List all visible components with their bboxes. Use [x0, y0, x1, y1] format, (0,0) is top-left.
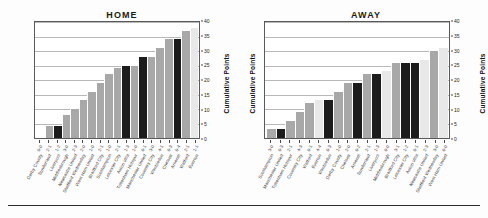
match-score-label: 2-0 — [344, 144, 352, 152]
bar — [323, 100, 333, 138]
y-tick-label: 20 — [454, 77, 460, 83]
y-tick-label: 35 — [204, 33, 210, 39]
bar — [400, 63, 410, 138]
bar — [121, 66, 130, 139]
x-tick-mark — [405, 140, 406, 143]
x-tick-mark — [134, 140, 135, 143]
match-score-label: 3-1 — [393, 144, 401, 152]
y-tick-label: 25 — [204, 62, 210, 68]
y-axis-label-away-left: Cumulative Points — [249, 54, 256, 114]
x-tick-mark — [151, 140, 152, 143]
x-tick-group: 4-3Coventry City — [294, 140, 304, 210]
x-tick-mark — [289, 140, 290, 143]
x-tick-group: 0-1Watford — [304, 140, 314, 210]
x-tick-group: 0-4Arsenal — [173, 140, 182, 210]
match-score-label: 2-1 — [45, 144, 53, 152]
chart-panel-away: AWAY 0510152025303540 Cumulative Points … — [244, 0, 488, 208]
x-tick-mark — [386, 140, 387, 143]
x-tick-mark — [357, 140, 358, 143]
x-tick-mark — [82, 140, 83, 143]
x-tick-mark — [48, 140, 49, 143]
y-tick-mark — [201, 80, 203, 81]
bar — [362, 74, 372, 138]
x-tick-mark — [186, 140, 187, 143]
bar — [138, 57, 147, 138]
y-tick-mark — [451, 35, 453, 36]
match-score-label: 3-0 — [62, 144, 70, 152]
match-score-label: 2-0 — [79, 144, 87, 152]
bar — [352, 83, 362, 138]
y-tick-mark — [451, 124, 453, 125]
x-tick-group: 1-0Derby County — [333, 140, 343, 210]
match-score-label: 2-1 — [97, 144, 105, 152]
bar — [371, 74, 381, 138]
y-tick-mark — [451, 21, 453, 22]
y-axis-away: 0510152025303540 — [451, 21, 473, 139]
bar — [343, 83, 353, 138]
match-score-label: 0-3 — [325, 144, 333, 152]
x-tick-mark — [396, 140, 397, 143]
y-tick-label: 5 — [204, 121, 207, 127]
match-score-label: 2-3 — [71, 144, 79, 152]
x-tick-mark — [39, 140, 40, 143]
y-tick-label: 0 — [454, 136, 457, 142]
bar — [104, 74, 113, 138]
match-score-label: 4-3 — [296, 144, 304, 152]
match-score-label: 1-2 — [402, 144, 410, 152]
plot-area-away — [264, 21, 450, 139]
y-tick-mark — [451, 109, 453, 110]
chart-panel-home: HOME 0510152025303540 Cumulative Points … — [0, 0, 244, 208]
match-score-label: 2-1 — [364, 144, 372, 152]
y-tick-label: 40 — [204, 18, 210, 24]
bar — [429, 51, 439, 138]
bar — [419, 60, 429, 138]
y-tick-label: 5 — [454, 121, 457, 127]
x-tick-mark — [74, 140, 75, 143]
match-score-label: 1-0 — [335, 144, 343, 152]
y-axis-label-home-right: Cumulative Points — [223, 54, 230, 114]
y-tick-mark — [201, 124, 203, 125]
x-tick-group: 2-1Sunderland — [362, 140, 372, 210]
match-score-label: 0-0 — [36, 144, 44, 152]
match-score-label: 1-0 — [105, 144, 113, 152]
x-tick-mark — [444, 140, 445, 143]
x-tick-mark — [91, 140, 92, 143]
y-tick-mark — [201, 94, 203, 95]
x-tick-group: 2-1Leicester City — [113, 140, 122, 210]
bar — [45, 126, 54, 138]
x-tick-group: 0-3Chelsea — [164, 140, 173, 210]
chart-title-away: AWAY — [244, 10, 488, 20]
y-tick-mark — [201, 65, 203, 66]
bar — [410, 63, 420, 138]
bar — [70, 109, 79, 138]
x-axis-home: 0-0Derby County2-1Sunderland1-2Liverpool… — [34, 140, 200, 210]
x-tick-labels-home: 0-0Derby County2-1Sunderland1-2Liverpool… — [34, 140, 200, 210]
match-score-label: 1-3 — [373, 144, 381, 152]
bar — [87, 92, 96, 138]
bar — [391, 63, 401, 138]
bar — [155, 48, 164, 138]
bar — [285, 121, 295, 138]
match-score-label: 0-4 — [174, 144, 182, 152]
x-tick-group: 0-0West Ham United — [439, 140, 449, 210]
x-tick-group: 1-2Leicester City — [401, 140, 411, 210]
bar — [164, 39, 173, 138]
bar — [181, 31, 190, 138]
bar — [173, 39, 182, 138]
bar — [79, 100, 88, 138]
match-score-label: 3-0 — [267, 144, 275, 152]
y-tick-mark — [451, 65, 453, 66]
x-tick-mark — [117, 140, 118, 143]
bar — [130, 66, 139, 139]
x-axis-away: 3-0Southampton0-3Manchester United2-1Tot… — [264, 140, 450, 210]
match-score-label: 0-3 — [166, 144, 174, 152]
bar — [96, 83, 105, 138]
y-tick-label: 40 — [454, 18, 460, 24]
match-score-label: 0-3 — [276, 144, 284, 152]
x-tick-mark — [299, 140, 300, 143]
y-tick-label: 10 — [204, 107, 210, 113]
y-tick-label: 25 — [454, 62, 460, 68]
y-tick-label: 30 — [204, 48, 210, 54]
x-tick-mark — [143, 140, 144, 143]
bar — [266, 129, 276, 138]
